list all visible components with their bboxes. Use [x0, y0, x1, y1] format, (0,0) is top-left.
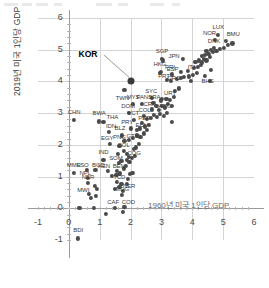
y-minor-tick	[67, 56, 71, 57]
y-minor-tick	[67, 62, 71, 63]
top-edge-segment	[54, 3, 62, 6]
kor-data-point	[128, 78, 135, 85]
data-point	[130, 171, 134, 175]
data-point	[182, 75, 186, 79]
y-minor-tick	[67, 202, 71, 203]
data-point	[160, 96, 164, 100]
x-minor-tick	[63, 207, 64, 210]
top-edge-segment	[172, 3, 180, 6]
y-tick-label: -1	[47, 234, 63, 244]
x-minor-tick	[235, 207, 236, 210]
y-minor-tick	[67, 88, 71, 89]
x-minor-tick	[75, 207, 76, 210]
point-label: NPL	[80, 170, 91, 176]
x-minor-tick	[248, 207, 249, 210]
point-label: ITA	[188, 64, 197, 70]
point-label: IND	[98, 149, 108, 155]
point-label: ESP	[167, 66, 179, 72]
point-label: PRY	[121, 119, 133, 125]
data-point	[216, 33, 220, 37]
y-minor-tick	[67, 151, 71, 152]
point-label: CHN	[68, 109, 81, 115]
point-label: ECU	[136, 122, 148, 128]
point-label: KEN	[98, 163, 110, 169]
y-minor-tick	[67, 69, 71, 70]
x-tick-label: 5	[215, 217, 231, 227]
x-tick-label: 2	[123, 217, 139, 227]
x-tick-label: 1	[92, 217, 108, 227]
point-label: ARG	[159, 103, 172, 109]
y-minor-tick	[67, 31, 71, 32]
point-label: SGP	[156, 48, 168, 54]
kor-callout-label: KOR	[79, 49, 98, 59]
data-point	[142, 131, 146, 135]
y-tick-label: 1	[47, 171, 63, 181]
x-tick-label: 3	[153, 217, 169, 227]
data-point	[170, 120, 174, 124]
point-label: BOL	[118, 142, 130, 148]
data-point	[104, 212, 108, 216]
y-minor-tick	[67, 183, 71, 184]
top-edge-segment	[118, 3, 128, 6]
gridline-horizontal	[38, 18, 254, 19]
point-label: BHS	[202, 78, 214, 84]
data-point	[178, 70, 182, 74]
y-axis-title: 2019년 미국 1인당 GDP	[10, 0, 22, 96]
y-minor-tick	[67, 94, 71, 95]
y-minor-tick	[67, 81, 71, 82]
data-point	[135, 128, 139, 132]
y-minor-tick	[67, 24, 71, 25]
x-minor-tick	[38, 207, 39, 210]
y-minor-tick	[67, 196, 71, 197]
data-point	[72, 118, 76, 122]
point-label: GRC	[167, 75, 180, 81]
point-label: EGY	[101, 135, 113, 141]
y-minor-tick	[67, 37, 71, 38]
x-minor-tick	[57, 207, 58, 210]
x-minor-tick	[87, 207, 88, 210]
data-point	[168, 98, 172, 102]
point-label: COG	[127, 150, 140, 156]
y-minor-tick	[67, 215, 71, 216]
x-minor-tick	[137, 207, 138, 210]
y-minor-tick	[67, 170, 71, 171]
data-point	[101, 120, 105, 124]
data-point	[86, 181, 90, 185]
point-label: DOM	[121, 103, 135, 109]
point-label: CAF	[107, 199, 119, 205]
x-minor-tick	[81, 207, 82, 210]
point-label: MWI	[77, 187, 89, 193]
point-label: JPN	[168, 53, 179, 59]
y-tick-label: 3	[47, 107, 63, 117]
data-point	[181, 57, 185, 61]
top-edge-segment	[22, 3, 32, 6]
point-label: BRA	[148, 94, 160, 100]
point-label: COD	[122, 199, 135, 205]
point-label: BLZ	[115, 125, 126, 131]
x-minor-tick	[69, 207, 70, 210]
data-point	[177, 86, 181, 90]
x-minor-tick	[143, 207, 144, 210]
x-minor-tick	[131, 207, 132, 210]
point-label: TCD	[113, 174, 125, 180]
y-minor-tick	[67, 100, 71, 101]
y-minor-tick	[67, 234, 71, 235]
y-minor-tick	[67, 119, 71, 120]
point-label: SOM	[109, 155, 122, 161]
y-tick-label: 6	[47, 12, 63, 22]
data-point	[94, 194, 98, 198]
y-minor-tick	[67, 177, 71, 178]
y-tick-label: 2	[47, 139, 63, 149]
point-label: NER	[123, 183, 135, 189]
data-point	[107, 129, 111, 133]
y-minor-tick	[67, 50, 71, 51]
data-point	[204, 58, 208, 62]
plot-area: -10123456 -10123456 BDIMWINERNPLLSOMMRBG…	[38, 18, 254, 240]
data-point	[93, 168, 97, 172]
y-tick-label: 5	[47, 44, 63, 54]
y-minor-tick	[67, 227, 71, 228]
point-label: THA	[107, 114, 119, 120]
point-label: BDI	[73, 227, 83, 233]
x-tick-label: 6	[246, 217, 262, 227]
data-point	[72, 171, 76, 175]
